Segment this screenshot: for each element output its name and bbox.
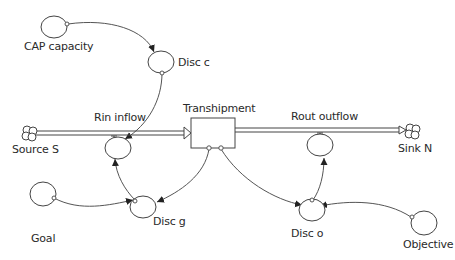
connector-objective-to-disco [320,202,411,217]
label-goal: Goal [31,232,55,245]
converter-cap-capacity [41,16,67,38]
connector-discg-to-rin [115,159,135,200]
label-source-s: Source S [12,143,59,156]
cloud-icon-sink [405,124,420,139]
label-objective: Objective [403,238,453,251]
converter-disc-c [148,51,174,73]
converter-rin-inflow [105,137,131,159]
label-rout-outflow: Rout outflow [291,110,358,123]
stock-transhipment-box [191,118,235,148]
connector-stock-to-disco [221,149,302,205]
label-cap-capacity: CAP capacity [24,40,93,53]
connector-goal-to-discg [54,198,133,206]
converter-objective [411,211,437,235]
label-disc-c: Disc c [178,56,210,69]
label-transhipment: Transhipment [183,102,255,115]
converter-goal [30,182,56,206]
cloud-icon-source [22,126,37,141]
converter-rout-outflow [307,134,333,156]
diagram-canvas [0,0,455,260]
connector-disco-to-rout [313,158,324,200]
label-disc-o: Disc o [291,227,323,240]
connector-stock-to-discg [157,149,209,202]
label-rin-inflow: Rin inflow [94,111,146,124]
label-disc-g: Disc g [153,215,186,228]
label-sink-n: Sink N [398,142,432,155]
connector-discc-to-rin [125,73,162,139]
